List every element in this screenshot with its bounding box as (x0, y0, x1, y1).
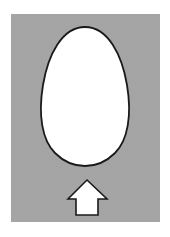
egg-figure (0, 0, 170, 237)
egg-shape (41, 27, 129, 166)
arrow-up-icon (68, 180, 107, 215)
